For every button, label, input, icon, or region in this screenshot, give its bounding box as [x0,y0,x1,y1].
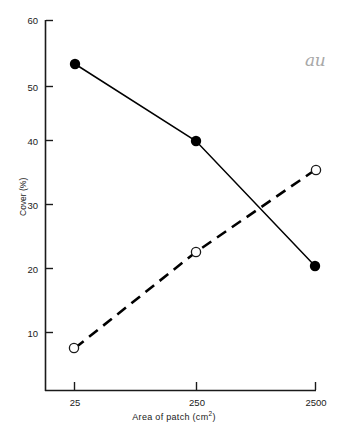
x-tick-label-250: 250 [189,397,205,408]
x-tick-label-2500: 2500 [305,397,326,408]
data-point-open-25 [69,343,78,352]
y-axis-title: Cover (%) [18,178,28,216]
x-axis-title-main: Area of patch (cm [132,412,208,422]
data-point-filled-2500 [310,261,320,271]
y-tick-label-40: 40 [6,136,38,147]
series-solid-line [75,64,315,266]
y-tick-label-50: 50 [6,82,38,93]
chart-plot-area [0,0,348,436]
data-point-open-250 [191,247,200,256]
y-tick-label-20: 20 [6,264,38,275]
handwritten-margin-annotation: au [305,50,325,70]
data-point-filled-250 [191,136,201,146]
x-axis-ticks [75,382,316,390]
chart-figure: 60 50 40 30 20 10 25 250 2500 Cover (%) … [0,0,348,436]
data-point-filled-25 [70,59,80,69]
y-tick-label-10: 10 [6,328,38,339]
series-dashed-line [75,170,315,348]
x-axis-title-close: ) [212,412,215,422]
x-tick-label-25: 25 [70,397,81,408]
series-solid-markers [70,59,320,271]
y-axis-ticks [46,21,53,333]
y-tick-label-60: 60 [6,15,38,26]
data-point-open-2500 [311,165,320,174]
x-axis-title: Area of patch (cm2) [0,410,348,422]
